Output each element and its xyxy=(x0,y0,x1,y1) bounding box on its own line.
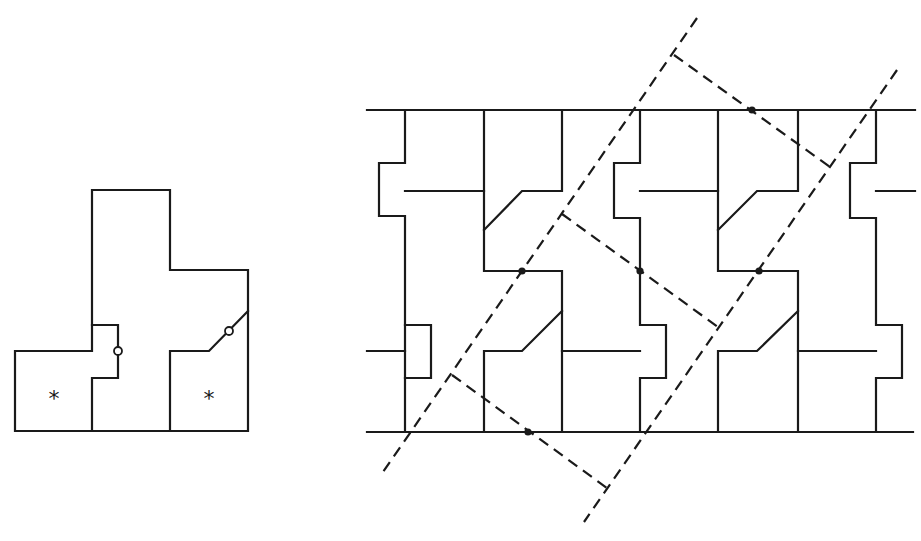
single-tile: * * xyxy=(15,190,248,431)
tile-left-notch xyxy=(92,325,118,431)
open-circle-marker xyxy=(225,327,233,335)
dashed-lattice-line xyxy=(584,70,897,522)
tile-right-boundary xyxy=(170,311,248,431)
filled-dot-marker xyxy=(524,428,531,435)
tile-edge xyxy=(379,110,405,432)
filled-dot-marker xyxy=(755,267,762,274)
diagram-canvas: * * xyxy=(0,0,921,541)
filled-dot-marker xyxy=(748,106,755,113)
tile-edge xyxy=(484,311,562,432)
tiling-strip xyxy=(367,18,915,522)
tile-edge xyxy=(484,110,562,230)
asterisk-marker: * xyxy=(204,386,215,411)
asterisk-marker: * xyxy=(49,386,60,411)
tile-edge xyxy=(718,311,798,432)
open-circle-marker xyxy=(114,347,122,355)
tile-edge xyxy=(405,325,431,378)
filled-dot-marker xyxy=(518,267,525,274)
tile-edge xyxy=(718,110,798,230)
filled-dot-marker xyxy=(636,267,643,274)
dashed-lattice-line xyxy=(383,18,697,472)
tile-edge xyxy=(850,110,902,432)
